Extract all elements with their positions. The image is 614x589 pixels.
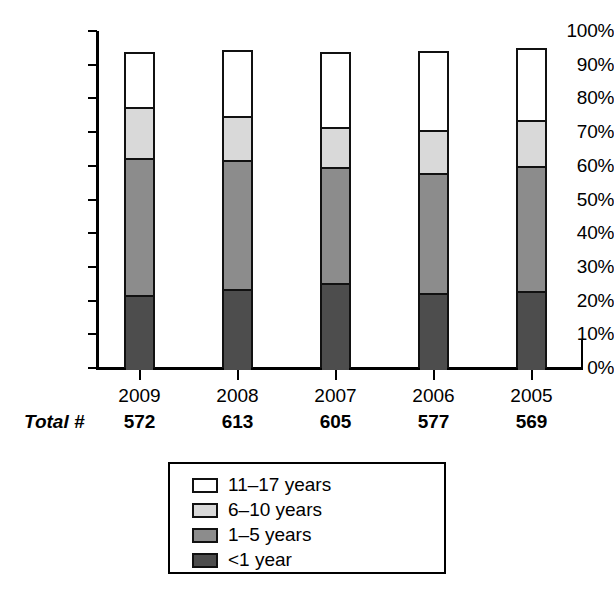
bar-segment	[126, 54, 153, 107]
bar-segment	[420, 130, 447, 173]
legend-swatch-icon	[192, 528, 218, 543]
bar-segment	[126, 158, 153, 295]
y-axis-tick-mark	[88, 199, 97, 201]
y-axis-tick-label: 100%	[546, 21, 614, 40]
stacked-bar-2005	[516, 48, 547, 368]
x-axis-tick-mark	[531, 369, 533, 380]
plot-area: 100%90%80%70%60%50%40%30%20%10%0%	[0, 0, 614, 380]
y-axis-tick-label: 80%	[546, 88, 614, 107]
x-axis-tick-mark	[335, 369, 337, 380]
y-axis-tick-mark	[88, 30, 97, 32]
x-axis-category-label: 2009	[100, 385, 180, 407]
bar-segment	[518, 50, 545, 120]
bar-segment	[126, 295, 153, 370]
chart-page: 100%90%80%70%60%50%40%30%20%10%0% 200920…	[0, 0, 614, 589]
x-axis-category-label: 2008	[198, 385, 278, 407]
y-axis-tick-label: 40%	[546, 223, 614, 242]
bar-segment	[224, 160, 251, 289]
bar-segment	[322, 167, 349, 283]
y-axis-tick-mark	[88, 367, 97, 369]
total-value: 613	[198, 411, 278, 433]
y-axis-line	[96, 31, 99, 370]
legend-item-label: <1 year	[228, 550, 292, 570]
stacked-bar-2006	[418, 51, 449, 368]
y-axis-tick-label: 30%	[546, 257, 614, 276]
x-axis-tick-mark	[433, 369, 435, 380]
bar-segment	[224, 52, 251, 116]
total-value: 572	[100, 411, 180, 433]
y-axis-tick-mark	[88, 131, 97, 133]
bar-segment	[420, 53, 447, 130]
chart-legend: 11–17 years6–10 years1–5 years<1 year	[168, 462, 446, 574]
y-axis-tick-mark	[88, 333, 97, 335]
y-axis-tick-mark	[88, 266, 97, 268]
bar-segment	[322, 127, 349, 167]
bar-segment	[322, 283, 349, 370]
x-axis-tick-mark	[139, 369, 141, 380]
y-axis-tick-mark	[88, 232, 97, 234]
bar-segment	[322, 54, 349, 127]
legend-item-label: 1–5 years	[228, 525, 311, 545]
y-axis-tick-label: 70%	[546, 122, 614, 141]
y-axis-tick-label: 10%	[546, 324, 614, 343]
x-axis-tick-mark	[237, 369, 239, 380]
legend-item: 11–17 years	[192, 473, 444, 497]
legend-item-label: 11–17 years	[228, 475, 331, 495]
legend-item: 6–10 years	[192, 498, 444, 522]
bar-segment	[518, 166, 545, 291]
bar-segment	[224, 116, 251, 160]
bar-segment	[518, 291, 545, 370]
y-axis-tick-label: 90%	[546, 55, 614, 74]
y-axis-tick-mark	[88, 64, 97, 66]
y-axis-tick-label: 20%	[546, 291, 614, 310]
legend-swatch-icon	[192, 503, 218, 518]
totals-row-label: Total #	[24, 411, 85, 433]
bar-segment	[224, 289, 251, 370]
y-axis-tick-label: 0%	[546, 358, 614, 377]
total-value: 569	[492, 411, 572, 433]
legend-item: <1 year	[192, 548, 444, 572]
y-axis-tick-label: 50%	[546, 190, 614, 209]
y-axis-tick-label: 60%	[546, 156, 614, 175]
y-axis-tick-mark	[88, 97, 97, 99]
y-axis-tick-mark	[88, 165, 97, 167]
stacked-bar-2008	[222, 50, 253, 368]
bar-segment	[420, 293, 447, 370]
bar-segment	[126, 107, 153, 158]
total-value: 605	[296, 411, 376, 433]
stacked-bar-2007	[320, 52, 351, 368]
bar-segment	[518, 120, 545, 166]
x-axis-category-label: 2007	[296, 385, 376, 407]
legend-item: 1–5 years	[192, 523, 444, 547]
legend-swatch-icon	[192, 553, 218, 568]
total-value: 577	[394, 411, 474, 433]
x-axis-category-label: 2005	[492, 385, 572, 407]
y-axis-tick-mark	[88, 300, 97, 302]
legend-item-label: 6–10 years	[228, 500, 322, 520]
x-axis-category-label: 2006	[394, 385, 474, 407]
x-axis-end-cap	[581, 340, 583, 370]
bar-segment	[420, 173, 447, 293]
stacked-bar-2009	[124, 52, 155, 368]
legend-swatch-icon	[192, 478, 218, 493]
